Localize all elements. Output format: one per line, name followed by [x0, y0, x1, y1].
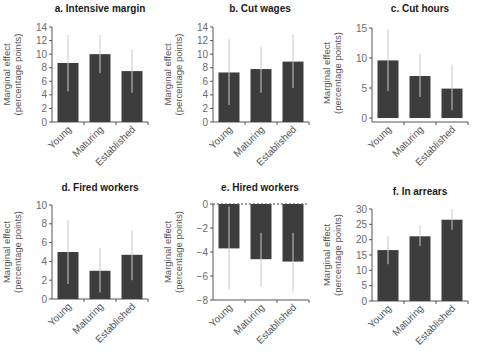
- y-tick-label: 6: [202, 76, 208, 87]
- y-tick-label: 5: [361, 280, 367, 291]
- x-tick-label: Young: [46, 124, 74, 152]
- bar-established: [442, 220, 463, 301]
- x-tick-label: Young: [207, 302, 235, 330]
- chart-grid: a. Intensive marginMarginal effect(perce…: [0, 0, 480, 352]
- y-tick-label: 30: [356, 204, 368, 215]
- y-tick-label: 6: [41, 76, 47, 87]
- y-tick-label: −6: [197, 271, 209, 282]
- y-tick-label: 0: [202, 117, 208, 128]
- y-tick-label: 5: [361, 83, 367, 94]
- y-tick-label: 10: [36, 49, 48, 60]
- y-tick-label: 8: [41, 218, 47, 229]
- y-axis-label: Marginal effect(percentage points): [1, 211, 23, 293]
- panel-title: c. Cut hours: [391, 3, 450, 14]
- y-tick-label: 15: [356, 250, 368, 261]
- y-tick-label: −2: [197, 223, 209, 234]
- y-tick-label: 0: [41, 294, 47, 305]
- y-axis-label: Marginal effect(percentage points): [321, 214, 343, 296]
- y-tick-label: 0: [361, 296, 367, 307]
- panel-title: b. Cut wages: [229, 3, 291, 14]
- y-tick-label: 14: [197, 22, 209, 33]
- y-tick-label: 2: [202, 103, 208, 114]
- y-tick-label: 4: [41, 256, 47, 267]
- panel-2: b. Cut wagesMarginal effect(percentage p…: [162, 3, 309, 168]
- y-tick-label: 12: [197, 35, 209, 46]
- y-axis-label: Marginal effect(percentage points): [162, 211, 184, 293]
- panel-title: d. Fired workers: [61, 182, 139, 193]
- y-tick-label: 4: [202, 89, 208, 100]
- panel-title: e. Hired workers: [221, 182, 299, 193]
- y-tick-label: 14: [36, 22, 48, 33]
- y-axis-label: Marginal effect(percentage points): [1, 34, 23, 116]
- panel-4: d. Fired workersMarginal effect(percenta…: [1, 182, 148, 345]
- x-tick-label: Young: [366, 124, 394, 152]
- y-tick-label: 0: [41, 117, 47, 128]
- panel-5: e. Hired workersMarginal effect(percenta…: [162, 182, 309, 346]
- y-tick-label: 20: [356, 234, 368, 245]
- panel-3: c. Cut hoursMarginal effect(percentage p…: [321, 3, 468, 168]
- panel-title: f. In arrears: [393, 186, 448, 197]
- y-tick-label: 15: [356, 23, 368, 34]
- x-tick-label: Young: [207, 124, 235, 152]
- y-tick-label: 10: [356, 265, 368, 276]
- y-axis-label: Marginal effect(percentage points): [162, 34, 184, 116]
- y-tick-label: 4: [41, 89, 47, 100]
- y-tick-label: 2: [41, 275, 47, 286]
- panel-1: a. Intensive marginMarginal effect(perce…: [1, 3, 148, 168]
- figure: a. Intensive marginMarginal effect(perce…: [0, 0, 480, 352]
- y-tick-label: 12: [36, 35, 48, 46]
- y-tick-label: 0: [202, 199, 208, 210]
- y-tick-label: 8: [202, 62, 208, 73]
- y-tick-label: 6: [41, 237, 47, 248]
- y-tick-label: 8: [41, 62, 47, 73]
- y-tick-label: 10: [36, 200, 48, 211]
- x-tick-label: Young: [46, 301, 74, 329]
- y-tick-label: 10: [356, 53, 368, 64]
- y-tick-label: −4: [197, 247, 209, 258]
- y-axis-label: Marginal effect(percentage points): [321, 32, 343, 114]
- x-tick-label: Young: [366, 303, 394, 331]
- y-tick-label: −8: [197, 295, 209, 306]
- y-tick-label: 0: [361, 113, 367, 124]
- panel-title: a. Intensive margin: [55, 3, 146, 14]
- y-tick-label: 10: [197, 49, 209, 60]
- y-tick-label: 25: [356, 219, 368, 230]
- y-tick-label: 2: [41, 103, 47, 114]
- panel-6: f. In arrearsMarginal effect(percentage …: [321, 186, 468, 347]
